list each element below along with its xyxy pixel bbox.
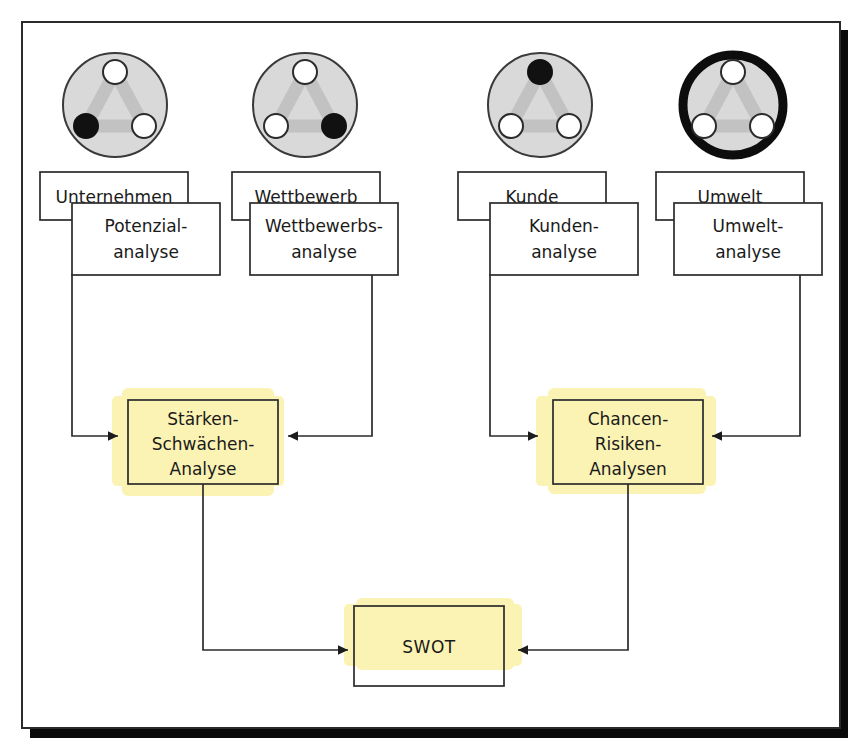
mid-label-chancen-line1: Chancen- [588,409,669,429]
analysis-label-unternehmen-line2: analyse [113,242,179,262]
analysis-label-umwelt-line1: Umwelt- [713,216,784,236]
mid-label-staerken-line2: Schwächen- [152,434,255,454]
box-layer: Unternehmen Potenzial- analyse Wettbewer… [0,0,860,750]
diagram-canvas: Unternehmen Potenzial- analyse Wettbewer… [0,0,860,750]
analysis-box-unternehmen[interactable]: Potenzial- analyse [72,203,220,275]
analysis-label-umwelt-line2: analyse [715,242,781,262]
analysis-label-wettbewerb-line1: Wettbewerbs- [265,216,383,236]
analysis-box-umwelt[interactable]: Umwelt- analyse [674,203,822,275]
analysis-label-kunde-line2: analyse [531,242,597,262]
mid-box-staerken-schwaechen[interactable]: Stärken- Schwächen- Analyse [128,400,278,484]
mid-label-staerken-line1: Stärken- [167,409,238,429]
result-label-swot: SWOT [402,637,455,657]
mid-label-staerken-line3: Analyse [170,459,237,479]
result-box-swot[interactable]: SWOT [354,606,504,686]
analysis-label-unternehmen-line1: Potenzial- [105,216,188,236]
mid-label-chancen-line2: Risiken- [595,434,662,454]
analysis-box-kunde[interactable]: Kunden- analyse [490,203,638,275]
mid-box-chancen-risiken[interactable]: Chancen- Risiken- Analysen [553,400,703,484]
analysis-box-wettbewerb[interactable]: Wettbewerbs- analyse [250,203,398,275]
mid-label-chancen-line3: Analysen [589,459,667,479]
analysis-label-wettbewerb-line2: analyse [291,242,357,262]
analysis-label-kunde-line1: Kunden- [529,216,599,236]
